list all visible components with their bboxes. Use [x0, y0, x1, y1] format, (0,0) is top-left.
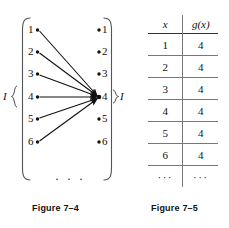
domain-label-6: 6 — [28, 136, 34, 147]
g-of-x-table: x g(x) 1 4 2 4 3 4 4 4 — [148, 15, 218, 187]
codomain-label-1: 1 — [102, 24, 108, 35]
table-head: x g(x) — [148, 15, 218, 34]
cell-x: 6 — [148, 144, 183, 166]
codomain-set-label: I — [120, 91, 124, 102]
codomain-brace — [113, 90, 119, 103]
header-gx: g(x) — [183, 15, 218, 34]
figure-pair-container: 1 2 3 4 5 6 1 2 3 4 5 6 I I · · · Figure… — [0, 0, 229, 228]
domain-label-3: 3 — [28, 68, 34, 79]
domain-label-1: 1 — [28, 24, 34, 35]
mapping-diagram-figure: 1 2 3 4 5 6 1 2 3 4 5 6 I I · · · Figure… — [0, 0, 130, 228]
cell-gx-ellipsis: ··· — [183, 166, 218, 188]
domain-dot-4 — [36, 95, 39, 98]
codomain-label-6: 6 — [102, 136, 108, 147]
cell-x-ellipsis: ··· — [148, 166, 183, 188]
cell-gx: 4 — [183, 56, 218, 78]
codomain-label-4: 4 — [102, 91, 108, 102]
codomain-dot-4 — [97, 95, 102, 100]
cell-gx: 4 — [183, 34, 218, 56]
value-table-figure: x g(x) 1 4 2 4 3 4 4 4 — [130, 0, 229, 228]
table-row: 2 4 — [148, 56, 218, 78]
domain-label-5: 5 — [28, 113, 34, 124]
domain-dot-5 — [36, 117, 39, 120]
domain-dot-2 — [36, 50, 39, 53]
table-row: 1 4 — [148, 34, 218, 56]
figure-7-4-caption: Figure 7–4 — [32, 203, 79, 213]
table-row: 6 4 — [148, 144, 218, 166]
codomain-label-2: 2 — [102, 46, 108, 57]
codomain-dot-3 — [97, 72, 100, 75]
table-body: 1 4 2 4 3 4 4 4 5 4 — [148, 34, 218, 188]
table-row: 4 4 — [148, 100, 218, 122]
codomain-dot-6 — [97, 140, 100, 143]
table-row-ellipsis: ··· ··· — [148, 166, 218, 188]
codomain-dot-5 — [97, 117, 100, 120]
codomain-label-5: 5 — [102, 113, 108, 124]
cell-gx: 4 — [183, 144, 218, 166]
mapping-diagram-graphic — [0, 0, 130, 190]
cell-gx: 4 — [183, 100, 218, 122]
cell-gx: 4 — [183, 122, 218, 144]
codomain-label-3: 3 — [102, 68, 108, 79]
cell-x: 3 — [148, 78, 183, 100]
cell-x: 5 — [148, 122, 183, 144]
table-row: 5 4 — [148, 122, 218, 144]
domain-brace — [12, 86, 18, 107]
cell-x: 1 — [148, 34, 183, 56]
figure-7-5-caption: Figure 7–5 — [151, 203, 198, 213]
domain-dot-6 — [36, 140, 39, 143]
arrow-2-to-4 — [40, 53, 98, 96]
arrow-6-to-4 — [40, 99, 98, 141]
domain-label-4: 4 — [28, 91, 34, 102]
arrow-5-to-4 — [40, 98, 98, 118]
codomain-dot-1 — [97, 28, 100, 31]
domain-set-label: I — [3, 91, 7, 102]
domain-dot-1 — [36, 28, 39, 31]
table-row: 3 4 — [148, 78, 218, 100]
cell-x: 4 — [148, 100, 183, 122]
diagram-ellipsis: · · · — [55, 172, 86, 187]
header-x: x — [148, 15, 183, 34]
domain-label-2: 2 — [28, 46, 34, 57]
cell-x: 2 — [148, 56, 183, 78]
codomain-dot-2 — [97, 50, 100, 53]
table-header-row: x g(x) — [148, 15, 218, 34]
domain-dot-3 — [36, 72, 39, 75]
cell-gx: 4 — [183, 78, 218, 100]
